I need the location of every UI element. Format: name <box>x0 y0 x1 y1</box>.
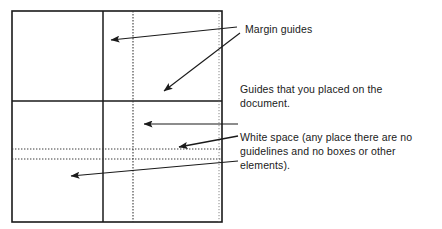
callout-placed-guides: Guides that you placed on the document. <box>240 82 430 110</box>
figure-canvas: Margin guides Guides that you placed on … <box>0 0 442 229</box>
document-page-box <box>12 11 222 222</box>
callout-margin-guides: Margin guides <box>245 22 312 36</box>
layout-guides-diagram <box>0 0 442 229</box>
callout-white-space: White space (any place there are no guid… <box>240 130 440 172</box>
